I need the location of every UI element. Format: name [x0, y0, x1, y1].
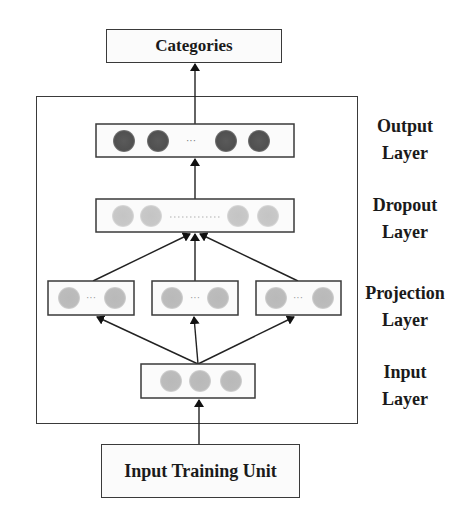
output-layer-box: ··· [96, 124, 294, 157]
dropout-layer-box [96, 199, 294, 232]
input-training-unit-box: Input Training Unit [101, 444, 300, 498]
svg-text:···: ··· [186, 135, 196, 146]
output-layer-label: Output Layer [350, 113, 460, 167]
input-layer-box [141, 364, 255, 398]
projection-box-middle: ··· [152, 281, 238, 315]
input-training-unit-label: Input Training Unit [124, 461, 276, 482]
dropout-layer-label: Dropout Layer [350, 192, 460, 246]
projection-box-left: ··· [48, 281, 134, 315]
svg-text:···: ··· [190, 292, 200, 303]
svg-text:···: ··· [86, 292, 96, 303]
input-layer-label: Input Layer [350, 359, 460, 413]
svg-text:···: ··· [293, 292, 303, 303]
projection-box-right: ··· [256, 281, 341, 315]
projection-layer-label: Projection Layer [350, 280, 460, 334]
